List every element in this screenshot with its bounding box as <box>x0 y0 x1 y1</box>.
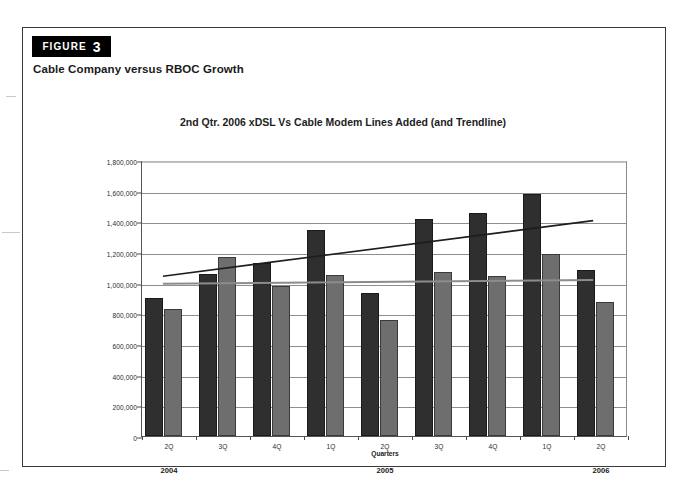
x-tick-mark <box>304 436 305 440</box>
bar-xdsl <box>361 293 379 436</box>
bar-cable-modem <box>164 309 182 436</box>
bar-group <box>520 162 574 436</box>
y-tick-label: 1,200,000 <box>107 251 137 258</box>
figure-banner: FIGURE 3 <box>32 36 111 57</box>
y-tick-label: 1,000,000 <box>107 281 137 288</box>
bar-group <box>304 162 358 436</box>
bar-group <box>142 162 196 436</box>
y-tick-label: 1,600,000 <box>107 189 137 196</box>
y-tick-label: 800,000 <box>112 312 137 319</box>
scan-artifact-left-top <box>6 96 16 97</box>
bar-xdsl <box>307 230 325 436</box>
bar-group <box>196 162 250 436</box>
bar-cable-modem <box>488 276 506 436</box>
bar-group <box>466 162 520 436</box>
x-axis-title: Quarters <box>371 450 399 457</box>
bar-xdsl <box>577 270 595 436</box>
x-tick-mark <box>196 436 197 440</box>
scan-artifact-left-bottom <box>0 470 9 471</box>
chart-title: 2nd Qtr. 2006 xDSL Vs Cable Modem Lines … <box>33 116 653 128</box>
x-tick-mark <box>520 436 521 440</box>
bar-cable-modem <box>596 302 614 436</box>
bar-xdsl <box>199 274 217 436</box>
figure-caption: Cable Company versus RBOC Growth <box>33 63 244 75</box>
year-label: 2004 <box>161 466 178 475</box>
x-tick-label: 4Q <box>489 443 498 450</box>
x-tick-mark <box>574 436 575 440</box>
bar-xdsl <box>523 194 541 436</box>
x-tick-label: 3Q <box>435 443 444 450</box>
bar-cable-modem <box>380 320 398 436</box>
figure-banner-number: 3 <box>93 40 101 54</box>
x-tick-label: 4Q <box>273 443 282 450</box>
y-tick-label: 1,400,000 <box>107 220 137 227</box>
bar-group <box>574 162 628 436</box>
bar-group <box>412 162 466 436</box>
figure-page-frame: FIGURE 3 Cable Company versus RBOC Growt… <box>22 27 666 467</box>
x-tick-label: 2Q <box>381 443 390 450</box>
y-tick-label: 600,000 <box>112 343 137 350</box>
chart-plot-area: 1,800,0001,600,0001,400,0001,200,0001,00… <box>141 161 627 437</box>
x-tick-mark <box>142 436 143 440</box>
bar-xdsl <box>469 213 487 436</box>
x-tick-label: 3Q <box>219 443 228 450</box>
x-tick-mark <box>250 436 251 440</box>
bar-cable-modem <box>542 254 560 436</box>
x-tick-label: 2Q <box>165 443 174 450</box>
x-tick-mark <box>358 436 359 440</box>
y-tick-label: 400,000 <box>112 373 137 380</box>
x-tick-label: 1Q <box>543 443 552 450</box>
bar-xdsl <box>415 219 433 436</box>
y-tick-label: 1,800,000 <box>107 159 137 166</box>
x-tick-mark <box>466 436 467 440</box>
x-tick-mark <box>628 436 629 440</box>
bar-cable-modem <box>434 272 452 436</box>
figure-banner-word: FIGURE <box>42 41 86 52</box>
bar-cable-modem <box>218 257 236 436</box>
bar-cable-modem <box>272 286 290 436</box>
y-tick-label: 0 <box>133 435 137 442</box>
x-tick-label: 2Q <box>597 443 606 450</box>
bar-group <box>358 162 412 436</box>
chart-container: 2nd Qtr. 2006 xDSL Vs Cable Modem Lines … <box>33 84 653 459</box>
scan-artifact-left-mid <box>2 232 20 233</box>
bar-group <box>250 162 304 436</box>
bar-cable-modem <box>326 275 344 436</box>
bar-xdsl <box>145 298 163 436</box>
x-tick-mark <box>412 436 413 440</box>
year-label: 2005 <box>377 466 394 475</box>
bar-xdsl <box>253 263 271 436</box>
year-label: 2006 <box>593 466 610 475</box>
y-tick-label: 200,000 <box>112 404 137 411</box>
x-tick-label: 1Q <box>327 443 336 450</box>
